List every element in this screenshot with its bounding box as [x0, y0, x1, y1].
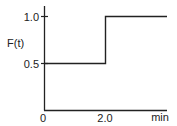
step-function-chart: 1.0 0.5 F(t) 0 2.0 min: [0, 0, 177, 126]
x-tick-label-step: 2.0: [97, 112, 112, 124]
step-series-line: [45, 17, 168, 64]
y-tick-label-mid: 0.5: [24, 58, 39, 70]
x-axis-unit-label: min: [151, 111, 169, 123]
y-axis-label: F(t): [7, 37, 24, 49]
x-tick-label-zero: 0: [40, 112, 46, 124]
y-tick-label-high: 1.0: [24, 11, 39, 23]
